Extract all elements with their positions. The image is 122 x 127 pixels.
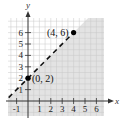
x-tick-label: -1: [13, 104, 21, 114]
x-axis-arrow-icon: [108, 99, 114, 104]
y-tick-label: 2: [19, 73, 24, 83]
x-tick-label: 1: [37, 104, 42, 114]
y-tick-label: 4: [19, 50, 24, 60]
inequality-graph: -1123456123456xy(0, 2)(4, 6): [0, 0, 122, 127]
y-axis-label: y: [25, 0, 30, 10]
x-tick-label: 5: [83, 104, 88, 114]
y-tick-label: 3: [19, 62, 24, 72]
y-tick-label: 6: [19, 28, 24, 38]
x-axis-label: x: [114, 96, 119, 106]
y-axis-arrow-icon: [26, 11, 31, 17]
x-tick-label: 3: [60, 104, 65, 114]
point-marker: [25, 76, 30, 81]
point-label: (0, 2): [32, 73, 54, 85]
x-tick-label: 6: [94, 104, 99, 114]
point-marker: [71, 30, 76, 35]
point-label: (4, 6): [47, 27, 69, 39]
y-tick-label: 5: [19, 39, 24, 49]
x-tick-label: 4: [71, 104, 76, 114]
x-tick-label: 2: [49, 104, 54, 114]
y-tick-label: 1: [19, 85, 24, 95]
